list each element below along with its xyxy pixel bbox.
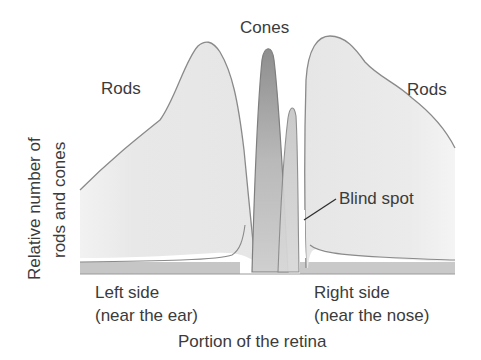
cones-baseline-band-right	[300, 262, 455, 274]
label-rods-right: Rods	[407, 80, 447, 100]
y-axis-label-line1: Relative number of	[25, 137, 45, 280]
label-left-side: Left side	[95, 283, 159, 303]
cones-baseline-band	[80, 262, 240, 274]
x-axis-label: Portion of the retina	[178, 332, 326, 352]
label-cones: Cones	[240, 18, 289, 38]
label-right-side: Right side	[314, 283, 390, 303]
y-axis-label: Relative number of rods and cones	[20, 90, 92, 280]
label-right-side-sub: (near the nose)	[314, 306, 429, 326]
rods-left-area	[80, 42, 256, 272]
y-axis-label-line2: rods and cones	[50, 142, 70, 258]
rods-right-area	[305, 36, 455, 268]
label-blind-spot: Blind spot	[339, 189, 414, 209]
label-left-side-sub: (near the ear)	[95, 306, 198, 326]
label-rods-left: Rods	[101, 79, 141, 99]
